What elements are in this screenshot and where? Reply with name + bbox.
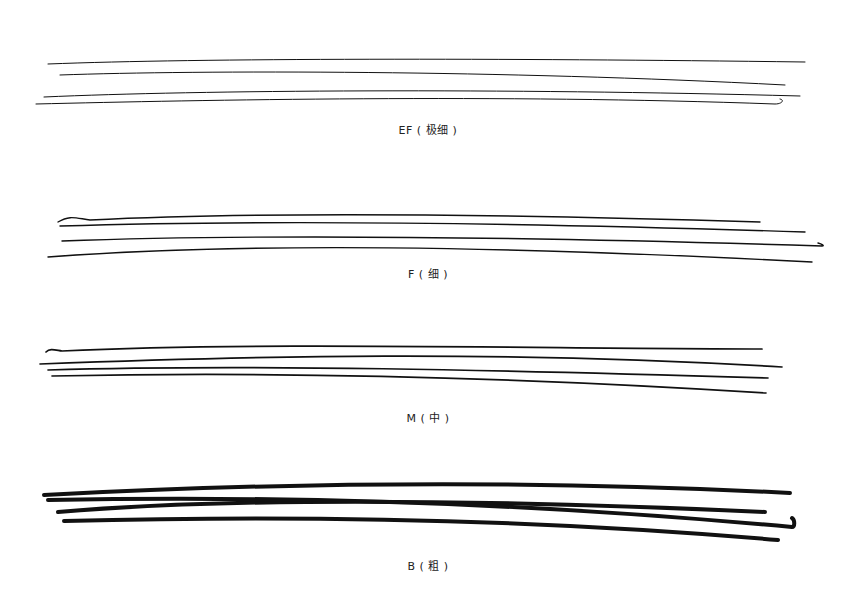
pen-stroke-line [64, 518, 778, 540]
pen-stroke-line [62, 237, 823, 246]
pen-stroke-line [48, 499, 794, 527]
pen-stroke-line [46, 346, 762, 352]
stroke-group-fine [48, 215, 823, 262]
pen-stroke-line [60, 223, 805, 232]
stroke-group-medium [40, 346, 782, 393]
label-f-fine: F ( 细 ) [328, 265, 528, 281]
label-b-broad: B ( 粗 ) [328, 557, 528, 573]
pen-stroke-line [58, 215, 760, 222]
label-ef-extra-fine: EF ( 极细 ) [328, 121, 528, 137]
pen-stroke-line [40, 356, 782, 367]
pen-stroke-line [60, 72, 785, 85]
stroke-group-broad [44, 484, 794, 540]
pen-stroke-line [48, 59, 805, 64]
pen-stroke-line [36, 99, 782, 104]
pen-stroke-line [44, 91, 800, 97]
pen-stroke-line [44, 484, 790, 495]
label-m-medium: M ( 中 ) [328, 409, 528, 425]
pen-stroke-canvas [0, 0, 855, 599]
pen-stroke-line [52, 375, 766, 393]
stroke-group-extra-fine [36, 59, 805, 104]
pen-stroke-line [48, 248, 812, 262]
